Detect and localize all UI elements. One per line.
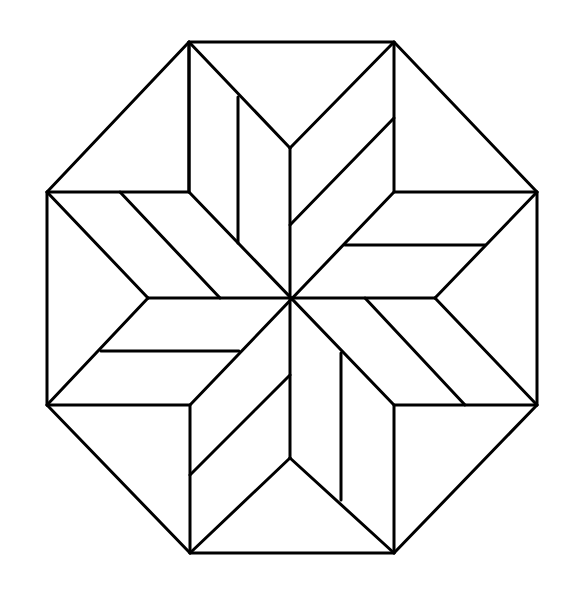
star-rays (47, 42, 537, 553)
star-octagon-diagram (0, 0, 567, 595)
